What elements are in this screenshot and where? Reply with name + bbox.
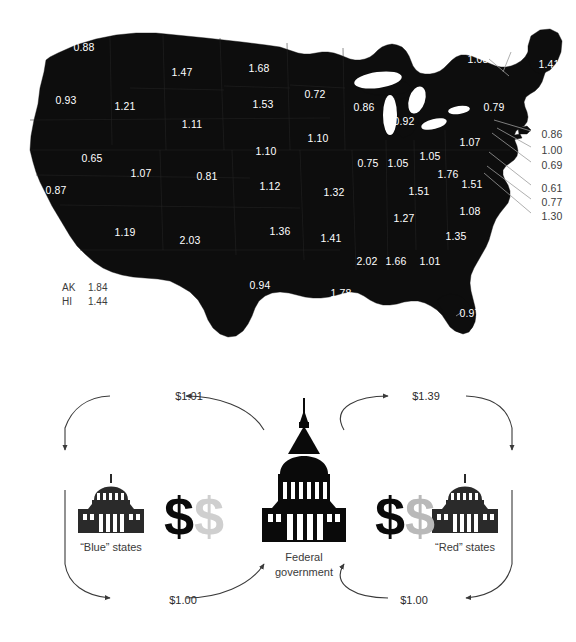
map-label-wy: 1.11 [182, 118, 202, 130]
map-label-pa: 1.07 [459, 136, 480, 148]
infographic-root: 0.880.931.471.211.681.530.720.860.921.11… [0, 0, 576, 642]
dollar-solid-blue: $ [164, 486, 194, 546]
dollar-ghost-blue: $ [194, 486, 224, 546]
map-label-va: 1.51 [461, 178, 482, 190]
flow-label-federal-to-blue: $1.01 [175, 390, 203, 402]
money-flow-diagram: $$ $$ $1.01 $1.00 $1.39 $1.00 “Blue” sta… [0, 378, 576, 642]
us-capitol-icon [262, 398, 346, 542]
map-label-nj: 0.61 [541, 182, 562, 194]
map-label-md: 1.30 [541, 210, 562, 222]
legend-value-ak: 1.84 [88, 282, 107, 293]
money-pair-blue: $$ [164, 489, 224, 543]
flow-label-federal-to-red: $1.39 [412, 390, 440, 402]
map-label-mi: 0.92 [393, 115, 414, 127]
map-label-sd: 1.53 [252, 98, 273, 110]
map-label-mo: 1.32 [323, 186, 344, 198]
dollar-solid-red: $ [375, 486, 405, 546]
map-label-mt: 1.47 [171, 66, 192, 78]
legend-value-hi: 1.44 [88, 296, 107, 307]
caption-blue-states: “Blue” states [80, 540, 142, 555]
legend-abbr-hi: HI [62, 296, 88, 307]
state-capitol-icon-blue [78, 474, 144, 533]
map-label-ne: 1.10 [255, 145, 276, 157]
map-label-sc: 1.35 [445, 230, 466, 242]
map-label-ma: 0.86 [541, 128, 562, 140]
dollar-ghost-red: $ [405, 486, 435, 546]
flow-label-red-to-federal: $1.00 [400, 594, 428, 606]
map-label-nm: 2.03 [179, 234, 200, 246]
arrow-blue-to-federal [186, 564, 264, 598]
map-label-ca: 0.87 [45, 184, 66, 196]
map-label-fl: 0.97 [459, 307, 480, 319]
caption-federal-line2: government [275, 565, 333, 580]
map-label-ct: 0.69 [541, 159, 562, 171]
map-label-ar: 1.41 [320, 232, 341, 244]
map-label-ny: 0.79 [483, 101, 504, 113]
map-label-al: 1.66 [385, 255, 406, 267]
map-label-co: 0.81 [196, 170, 217, 182]
map-label-az: 1.19 [114, 226, 135, 238]
arrow-red-to-federal [340, 564, 388, 598]
arrow-federal-to-red-tail [466, 396, 512, 450]
map-label-nh: 1.08 [467, 53, 488, 65]
state-capitol-icon-red [432, 474, 498, 533]
map-label-nv: 0.65 [81, 152, 102, 164]
map-label-oh: 1.05 [419, 150, 440, 162]
map-label-id: 1.21 [114, 100, 135, 112]
flow-label-blue-to-federal: $1.00 [169, 594, 197, 606]
map-label-wi: 0.86 [353, 101, 374, 113]
map-label-me: 1.41 [538, 58, 559, 70]
map-label-tn: 1.27 [393, 212, 414, 224]
map-label-or: 0.93 [55, 94, 76, 106]
map-label-ia: 1.10 [307, 132, 328, 144]
caption-red-states: “Red” states [435, 540, 495, 555]
map-label-ok: 1.36 [269, 225, 290, 237]
map-label-la: 1.78 [330, 287, 351, 299]
map-label-wa: 0.88 [73, 41, 94, 53]
map-label-il: 0.75 [357, 157, 378, 169]
map-label-ks: 1.12 [259, 180, 280, 192]
map-label-de: 0.77 [541, 196, 562, 208]
map-label-vt: 0.71 [500, 38, 521, 50]
map-label-nc: 1.08 [459, 205, 480, 217]
legend-row-hi: HI1.44 [62, 296, 107, 307]
map-label-ri: 1.00 [541, 144, 562, 156]
map-label-ut: 1.07 [130, 167, 151, 179]
caption-federal-government: Federal government [275, 550, 333, 580]
map-label-ky: 1.51 [408, 185, 429, 197]
map-label-in: 1.05 [387, 157, 408, 169]
map-label-mn: 0.72 [304, 88, 325, 100]
caption-federal-line1: Federal [275, 550, 333, 565]
us-choropleth-map: 0.880.931.471.211.681.530.720.860.921.11… [0, 0, 576, 360]
map-label-ga: 1.01 [419, 255, 440, 267]
map-label-tx: 0.94 [249, 279, 270, 291]
map-label-ms: 2.02 [356, 255, 377, 267]
legend-row-ak: AK1.84 [62, 282, 107, 293]
arrow-federal-to-red [340, 396, 388, 430]
map-label-wv: 1.76 [437, 168, 458, 180]
diagram-svg [0, 378, 576, 642]
legend-abbr-ak: AK [62, 282, 88, 293]
arrow-federal-to-blue-tail [65, 396, 110, 450]
map-label-nd: 1.68 [248, 62, 269, 74]
money-pair-red: $$ [375, 489, 435, 543]
